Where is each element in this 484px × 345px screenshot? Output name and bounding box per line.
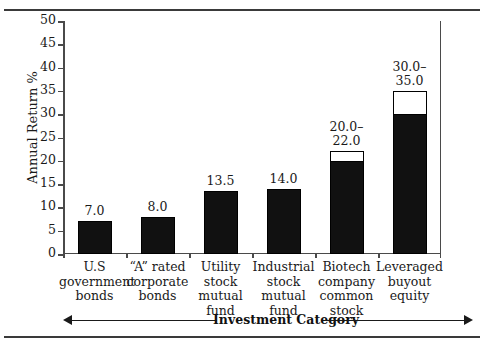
y-tick-mark [58, 231, 63, 233]
category-label-line: bonds [59, 289, 130, 304]
x-tick-mark [126, 253, 128, 258]
category-label-line: buyout [374, 275, 445, 290]
y-tick-label: 45 [40, 35, 56, 50]
y-tick-label: 30 [40, 105, 56, 120]
bar-value-label: 7.0 [63, 204, 126, 218]
category-label-line: U.S [59, 260, 130, 275]
plot-right-border [440, 21, 442, 254]
y-tick-mark [58, 184, 63, 186]
category-label-line: Utility [185, 260, 256, 275]
bar [204, 191, 238, 254]
category-label-line: “A” rated [122, 260, 193, 275]
y-tick-mark [58, 91, 63, 93]
y-tick-label: 10 [40, 198, 56, 213]
bar [393, 114, 427, 254]
figure-container: Annual Return % 05101520253035404550 7.0… [0, 0, 484, 345]
y-axis-line [63, 21, 65, 254]
figure-bottom-rule [4, 336, 480, 338]
category-label-line: corporate [122, 275, 193, 290]
category-label: Industrialstockmutualfund [248, 260, 319, 318]
bar-value-label: 14.0 [252, 172, 315, 186]
y-tick-mark [58, 138, 63, 140]
x-tick-mark [252, 253, 254, 258]
category-label: Leveragedbuyoutequity [374, 260, 445, 304]
category-label: U.Sgovernmentbonds [59, 260, 130, 304]
category-label-line: mutual [248, 289, 319, 304]
category-label-line: Leveraged [374, 260, 445, 275]
category-label-line: Biotech [311, 260, 382, 275]
category-label-line: Industrial [248, 260, 319, 275]
y-tick-label: 15 [40, 175, 56, 190]
x-tick-mark [63, 253, 65, 258]
category-label-line: government [59, 275, 130, 290]
x-axis-caption-band: Investment Category [63, 312, 473, 330]
y-tick-label: 5 [48, 222, 56, 237]
figure-top-rule [4, 9, 480, 11]
x-tick-mark [315, 253, 317, 258]
y-tick-label: 35 [40, 82, 56, 97]
y-tick-mark [58, 44, 63, 46]
category-label-line: mutual [185, 289, 256, 304]
bar-range-cap [330, 151, 364, 160]
bar-value-label: 30.0– 35.0 [378, 60, 441, 88]
x-tick-mark [378, 253, 380, 258]
y-axis-title: Annual Return % [25, 48, 40, 208]
category-label-line: stock [248, 275, 319, 290]
arrow-line-left [71, 320, 217, 321]
category-label-line: equity [374, 289, 445, 304]
y-tick-mark [58, 161, 63, 163]
category-label: Utilitystockmutualfund [185, 260, 256, 318]
bar-value-label: 13.5 [189, 174, 252, 188]
x-tick-mark [440, 253, 442, 258]
y-tick-mark [58, 68, 63, 70]
x-axis-title: Investment Category [213, 312, 333, 327]
x-tick-mark [189, 253, 191, 258]
category-label-line: common [311, 289, 382, 304]
bar [267, 189, 301, 254]
bar-value-label: 20.0– 22.0 [315, 120, 378, 148]
category-label-line: bonds [122, 289, 193, 304]
y-tick-label: 50 [40, 12, 56, 27]
bar [141, 217, 175, 254]
category-label-line: stock [185, 275, 256, 290]
arrow-line-right [325, 320, 465, 321]
bar [78, 221, 112, 254]
y-tick-label: 20 [40, 152, 56, 167]
bar-value-label: 8.0 [126, 200, 189, 214]
arrow-right-icon [464, 315, 473, 325]
y-tick-label: 0 [48, 245, 56, 260]
category-label: Biotechcompanycommonstock [311, 260, 382, 318]
bar-range-cap [393, 91, 427, 114]
y-tick-label: 25 [40, 129, 56, 144]
category-label: “A” ratedcorporatebonds [122, 260, 193, 304]
y-tick-mark [58, 21, 63, 23]
category-label-line: company [311, 275, 382, 290]
plot-area: 05101520253035404550 7.08.013.514.020.0–… [63, 21, 441, 254]
y-tick-mark [58, 114, 63, 116]
y-tick-label: 40 [40, 59, 56, 74]
bar [330, 161, 364, 254]
